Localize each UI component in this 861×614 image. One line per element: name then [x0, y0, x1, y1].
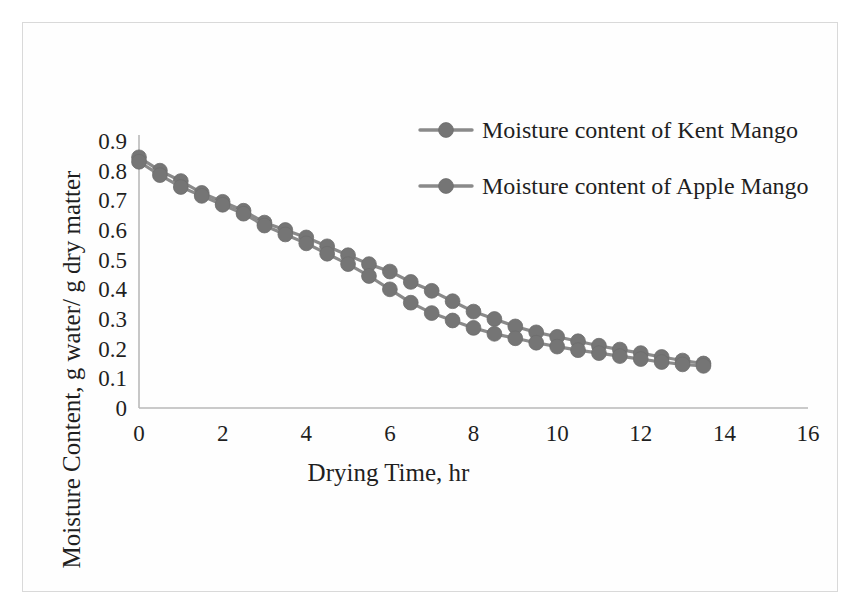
- legend-label: Moisture content of Kent Mango: [482, 117, 798, 143]
- data-point: [403, 295, 418, 310]
- x-tick-label: 8: [468, 421, 480, 446]
- y-tick-label: 0.1: [98, 366, 127, 391]
- data-point: [382, 282, 397, 297]
- legend-label: Moisture content of Apple Mango: [482, 173, 809, 199]
- x-tick-label: 14: [713, 421, 737, 446]
- data-point: [341, 257, 356, 272]
- data-point: [403, 275, 418, 290]
- y-axis-title: Moisture Content, g water/ g dry matter: [58, 170, 85, 569]
- data-point: [132, 154, 147, 169]
- data-point: [278, 227, 293, 242]
- data-point: [654, 355, 669, 370]
- x-axis-title: Drying Time, hr: [308, 459, 471, 486]
- data-point: [592, 346, 607, 361]
- legend-marker-swatch: [439, 179, 454, 194]
- y-tick-label: 0.7: [98, 188, 127, 213]
- data-point: [445, 294, 460, 309]
- data-point: [487, 312, 502, 327]
- data-point: [633, 352, 648, 367]
- y-tick-label: 0: [116, 396, 128, 421]
- data-point: [675, 357, 690, 372]
- data-point: [299, 236, 314, 251]
- data-point: [153, 168, 168, 183]
- data-point: [362, 269, 377, 284]
- data-point: [550, 339, 565, 354]
- x-tick-label: 6: [384, 421, 396, 446]
- data-point: [236, 206, 251, 221]
- y-tick-label: 0.6: [98, 218, 127, 243]
- data-point: [487, 326, 502, 341]
- data-point: [571, 343, 586, 358]
- data-point: [696, 358, 711, 373]
- data-point: [382, 264, 397, 279]
- data-point: [529, 335, 544, 350]
- x-tick-label: 12: [629, 421, 652, 446]
- data-point: [215, 197, 230, 212]
- data-point: [424, 283, 439, 298]
- data-point: [194, 188, 209, 203]
- data-point: [173, 180, 188, 195]
- x-tick-label: 2: [217, 421, 229, 446]
- y-tick-label: 0.8: [98, 159, 127, 184]
- data-point: [257, 218, 272, 233]
- legend-marker-swatch: [439, 123, 454, 138]
- y-tick-label: 0.3: [98, 307, 127, 332]
- drying-curve-chart: 024681012141600.10.20.30.40.50.60.70.80.…: [0, 0, 861, 614]
- legend-item: Moisture content of Kent Mango: [420, 117, 798, 143]
- data-point: [612, 349, 627, 364]
- data-point: [508, 331, 523, 346]
- y-tick-label: 0.4: [98, 277, 127, 302]
- x-tick-label: 0: [133, 421, 145, 446]
- y-tick-label: 0.2: [98, 337, 127, 362]
- data-point: [466, 304, 481, 319]
- x-tick-label: 4: [301, 421, 313, 446]
- y-tick-label: 0.9: [98, 129, 127, 154]
- legend-item: Moisture content of Apple Mango: [420, 173, 809, 199]
- x-tick-label: 16: [797, 421, 820, 446]
- data-point: [445, 313, 460, 328]
- y-tick-label: 0.5: [98, 248, 127, 273]
- data-point: [424, 306, 439, 321]
- data-point: [466, 321, 481, 336]
- data-point: [320, 246, 335, 261]
- x-tick-label: 10: [546, 421, 569, 446]
